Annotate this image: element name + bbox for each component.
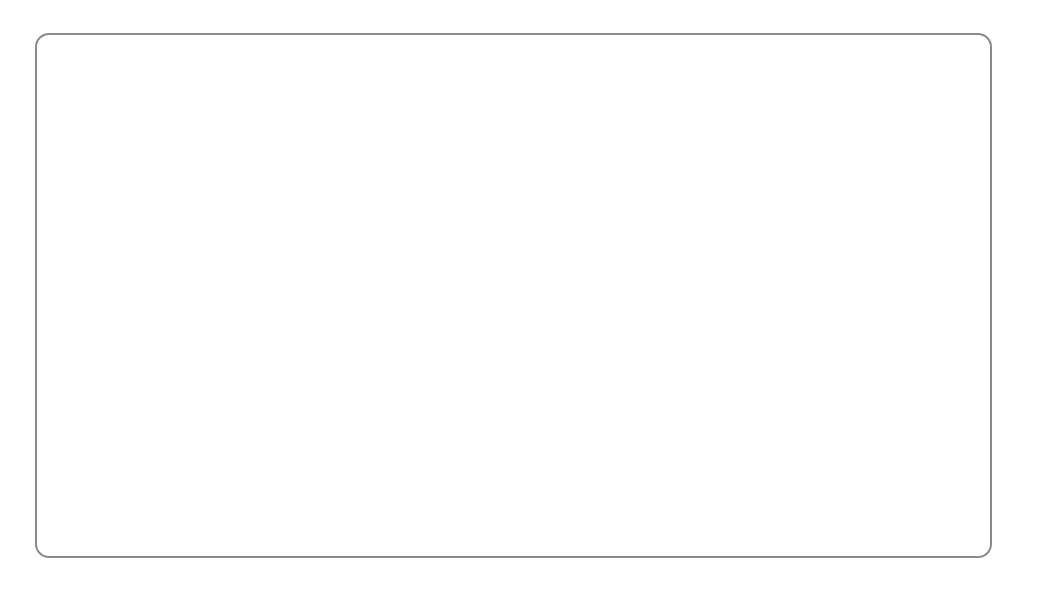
line-chart bbox=[37, 35, 994, 490]
chart-plot-area bbox=[37, 35, 994, 490]
figure-card bbox=[35, 33, 992, 558]
